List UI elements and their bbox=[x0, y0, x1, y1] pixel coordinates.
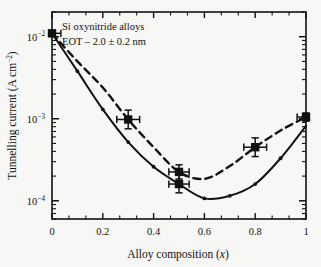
series-point-marker bbox=[126, 140, 130, 144]
series-point-marker bbox=[279, 156, 283, 160]
x-tick-label: 0.8 bbox=[249, 226, 262, 237]
x-tick-label: 0 bbox=[49, 226, 54, 237]
figure-container: 00.20.40.60.81 10−210−310−4 Alloy compos… bbox=[0, 0, 321, 267]
tunnelling-current-chart: 00.20.40.60.81 10−210−310−4 Alloy compos… bbox=[0, 0, 321, 267]
series-point-marker bbox=[152, 165, 156, 169]
square-marker[interactable] bbox=[124, 115, 132, 123]
series-point-marker bbox=[76, 69, 80, 73]
x-tick-label: 0.6 bbox=[198, 226, 211, 237]
series-point-marker bbox=[253, 182, 257, 186]
series-point-marker bbox=[101, 107, 105, 111]
annotation-line-2: EOT – 2.0 ± 0.2 nm bbox=[62, 36, 146, 47]
series-point-marker bbox=[203, 196, 207, 200]
square-marker[interactable] bbox=[48, 29, 56, 37]
square-marker[interactable] bbox=[302, 113, 310, 121]
y-axis-title: Tunnelling current (A cm−2) bbox=[6, 51, 19, 179]
series-point-marker bbox=[228, 194, 232, 198]
square-marker[interactable] bbox=[251, 143, 259, 151]
x-tick-label: 0.4 bbox=[147, 226, 161, 237]
x-tick-label: 0.2 bbox=[96, 226, 109, 237]
figure-background bbox=[0, 0, 321, 267]
square-marker[interactable] bbox=[175, 180, 183, 188]
annotation-line-1: Si oxynitride alloys bbox=[62, 21, 144, 32]
x-axis-title: Alloy composition (x) bbox=[127, 248, 229, 261]
y-axis-title-text: Tunnelling current (A cm−2) bbox=[6, 51, 19, 179]
x-tick-label: 1 bbox=[303, 226, 308, 237]
